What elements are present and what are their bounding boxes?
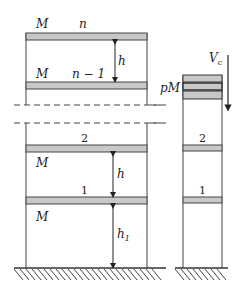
mass-label-floor-n: M	[35, 17, 49, 31]
ground-hatch-left	[14, 269, 161, 280]
right-slab-floor-2	[183, 145, 222, 151]
lumped-mass-layer-1	[183, 75, 222, 82]
story-height-label-middle: h	[117, 167, 125, 181]
mass-label-floor-2: M	[35, 156, 49, 170]
left-frame: M n M n − 1 2 M 1 M h h h1	[14, 17, 166, 280]
floor-label-n: n	[79, 17, 87, 31]
right-slab-floor-1	[183, 197, 222, 203]
slab-floor-n-1	[26, 82, 147, 89]
right-floor-label-2: 2	[199, 132, 206, 145]
right-column: pM 2 1 Vc	[160, 51, 228, 280]
shear-load-label: Vc	[209, 51, 223, 67]
story-height-label-top: h	[118, 54, 126, 68]
floor-label-2: 2	[81, 132, 88, 145]
ground-hatch-right	[175, 269, 226, 280]
mass-label-floor-n-1: M	[35, 67, 49, 81]
right-floor-label-1: 1	[199, 184, 206, 197]
lumped-mass-label: pM	[160, 81, 181, 95]
lumped-mass-layer-2	[183, 83, 222, 90]
floor-label-1: 1	[81, 184, 88, 197]
slab-floor-n	[26, 33, 147, 40]
lumped-mass-layer-3	[183, 91, 222, 99]
slab-floor-1	[26, 197, 147, 204]
slab-floor-2	[26, 145, 147, 152]
floor-label-n-1: n − 1	[72, 67, 105, 81]
diagram-canvas: M n M n − 1 2 M 1 M h h h1 pM 2 1 Vc	[0, 0, 240, 294]
first-story-height-label: h1	[117, 227, 130, 243]
mass-label-floor-1: M	[35, 210, 49, 224]
